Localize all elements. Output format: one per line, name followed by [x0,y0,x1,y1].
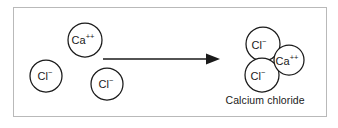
ion-calcium-ion-product: Ca++ [274,45,304,75]
ion-symbol-calcium-ion-product: Ca [276,55,291,67]
ion-symbol-chloride-ion-top: Cl [252,39,262,51]
diagram-canvas: Ca++ Cl− Cl− [0,0,338,128]
reaction-arrow [103,54,220,65]
ion-symbol-chloride-ion-left: Cl [38,70,48,82]
ion-charge-chloride-ion-top: − [262,37,267,46]
reactant-group: Ca++ Cl− Cl− [30,23,123,100]
product-group: Cl− Cl− Ca++ [245,27,304,92]
ion-symbol-chloride-ion-bottom: Cl [251,70,261,82]
ion-symbol-calcium-ion: Ca [72,34,87,46]
ion-charge-calcium-ion-product: ++ [290,53,299,62]
reaction-arrow-head [206,54,220,65]
reaction-diagram: Ca++ Cl− Cl− [0,0,338,128]
ion-charge-chloride-ion-bottom: − [261,68,266,77]
product-caption: Calcium chloride [226,94,305,106]
ion-charge-calcium-ion: ++ [86,32,95,41]
ion-chloride-ion-middle: Cl− [91,68,123,100]
ion-charge-chloride-ion-left: − [48,68,53,77]
ion-symbol-chloride-ion-middle: Cl [99,78,109,90]
ion-chloride-ion-left: Cl− [30,60,62,92]
ion-charge-chloride-ion-middle: − [109,76,114,85]
ion-calcium-ion: Ca++ [68,23,102,57]
